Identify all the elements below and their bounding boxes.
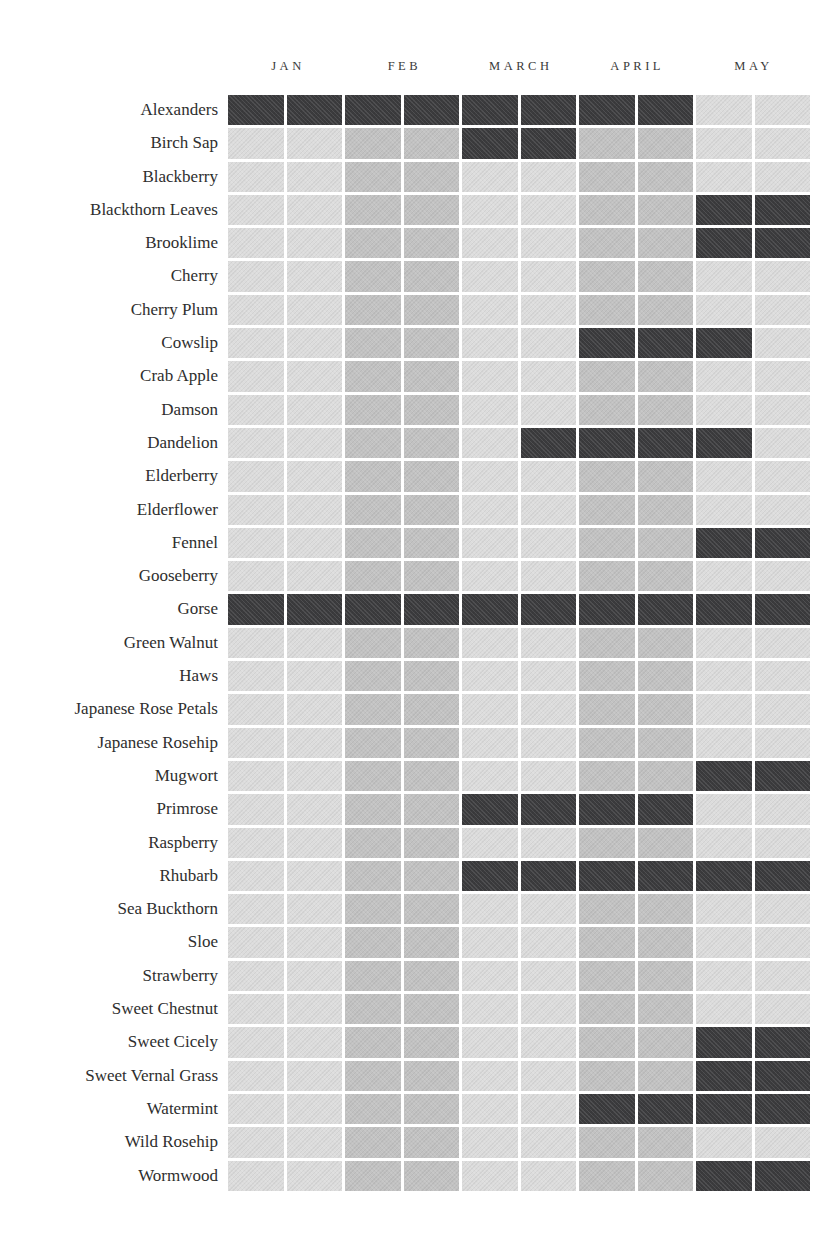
season-cell-off [521, 261, 577, 291]
season-cell-in-season [755, 761, 811, 791]
row-cells [228, 328, 810, 358]
season-cell-off [287, 828, 343, 858]
season-cell-off [638, 628, 694, 658]
season-cell-off [404, 228, 460, 258]
season-cell-off [345, 1027, 401, 1057]
season-cell-off [755, 395, 811, 425]
season-cell-off [521, 961, 577, 991]
season-cell-off [521, 561, 577, 591]
row-label: Green Walnut [0, 628, 228, 658]
season-cell-off [696, 395, 752, 425]
row-label: Wild Rosehip [0, 1127, 228, 1157]
row-label: Blackberry [0, 162, 228, 192]
row-cells [228, 828, 810, 858]
season-cell-off [521, 162, 577, 192]
row-cells [228, 694, 810, 724]
season-cell-off [696, 894, 752, 924]
season-cell-off [521, 628, 577, 658]
season-cell-off [462, 1127, 518, 1157]
season-cell-off [345, 861, 401, 891]
season-cell-in-season [696, 428, 752, 458]
season-cell-off [462, 961, 518, 991]
season-cell-off [521, 328, 577, 358]
season-cell-off [345, 162, 401, 192]
season-cell-off [638, 261, 694, 291]
season-cell-off [696, 128, 752, 158]
season-cell-off [462, 761, 518, 791]
row-label: Cowslip [0, 328, 228, 358]
table-row: Haws [0, 661, 812, 691]
season-cell-off [228, 461, 284, 491]
season-cell-off [404, 128, 460, 158]
season-cell-off [579, 295, 635, 325]
season-cell-off [579, 361, 635, 391]
row-cells [228, 794, 810, 824]
season-cell-off [404, 628, 460, 658]
season-cell-off [345, 461, 401, 491]
season-cell-off [755, 95, 811, 125]
row-cells [228, 861, 810, 891]
season-cell-off [345, 428, 401, 458]
season-cell-off [696, 994, 752, 1024]
season-cell-in-season [696, 1027, 752, 1057]
season-cell-off [696, 927, 752, 957]
row-label: Sea Buckthorn [0, 894, 228, 924]
season-cell-off [404, 728, 460, 758]
season-cell-in-season [404, 594, 460, 624]
row-label: Mugwort [0, 761, 228, 791]
row-cells [228, 961, 810, 991]
season-cell-in-season [345, 95, 401, 125]
season-cell-off [287, 728, 343, 758]
season-cell-off [287, 1094, 343, 1124]
row-cells [228, 428, 810, 458]
season-cell-off [579, 261, 635, 291]
season-cell-off [345, 195, 401, 225]
season-cell-off [462, 1161, 518, 1191]
season-cell-off [462, 894, 518, 924]
season-cell-off [521, 761, 577, 791]
season-cell-off [228, 495, 284, 525]
season-cell-off [228, 261, 284, 291]
season-cell-off [404, 1161, 460, 1191]
season-cell-off [696, 561, 752, 591]
season-cell-off [287, 1161, 343, 1191]
season-cell-off [755, 994, 811, 1024]
row-label: Rhubarb [0, 861, 228, 891]
season-cell-off [404, 428, 460, 458]
season-cell-off [462, 228, 518, 258]
season-cell-in-season [755, 1094, 811, 1124]
season-cell-off [462, 561, 518, 591]
season-cell-off [462, 261, 518, 291]
row-cells [228, 561, 810, 591]
season-cell-in-season [696, 228, 752, 258]
season-cell-off [755, 894, 811, 924]
season-cell-off [345, 694, 401, 724]
row-cells [228, 128, 810, 158]
table-row: Birch Sap [0, 128, 812, 158]
season-cell-in-season [287, 594, 343, 624]
season-cell-off [579, 728, 635, 758]
season-cell-off [755, 628, 811, 658]
row-cells [228, 95, 810, 125]
row-cells [228, 661, 810, 691]
season-cell-in-season [462, 128, 518, 158]
season-cell-off [287, 261, 343, 291]
season-cell-off [404, 894, 460, 924]
season-cell-off [579, 694, 635, 724]
season-cell-off [228, 661, 284, 691]
season-cell-off [462, 295, 518, 325]
season-cell-off [462, 728, 518, 758]
season-cell-off [755, 927, 811, 957]
season-cell-off [521, 1127, 577, 1157]
season-cell-off [521, 1094, 577, 1124]
row-cells [228, 1127, 810, 1157]
season-cell-off [638, 927, 694, 957]
season-cell-in-season [345, 594, 401, 624]
season-cell-off [462, 628, 518, 658]
table-row: Elderberry [0, 461, 812, 491]
season-cell-off [755, 1127, 811, 1157]
season-cell-in-season [755, 228, 811, 258]
table-row: Sea Buckthorn [0, 894, 812, 924]
season-cell-off [404, 761, 460, 791]
season-cell-in-season [696, 761, 752, 791]
